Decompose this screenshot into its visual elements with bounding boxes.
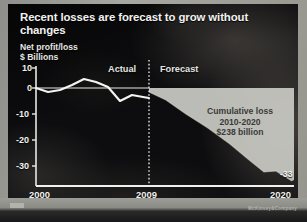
y-axis-label-m30: -30	[8, 161, 29, 171]
x-axis-label-2009: 2009	[136, 189, 157, 198]
y-axis-label-m10: -10	[8, 109, 29, 119]
photo-frame: Recent losses are forecast to grow witho…	[0, 0, 307, 222]
period-label-forecast: Forecast	[160, 64, 198, 74]
x-axis-label-2000: 2000	[29, 189, 50, 198]
axis-title-line-2: $ Billions	[20, 52, 170, 62]
slide-title: Recent losses are forecast to grow witho…	[20, 11, 270, 37]
axis-title-line-1: Net profit/loss	[20, 42, 170, 52]
callout-line-3: $238 billion	[184, 127, 296, 138]
period-label-actual: Actual	[108, 64, 136, 74]
slide-page-marker	[10, 203, 24, 208]
callout-line-1: Cumulative loss	[184, 106, 296, 117]
cumulative-loss-callout: Cumulative loss 2010-2020 $238 billion	[184, 106, 296, 138]
y-axis-label-10: 10	[10, 63, 32, 73]
presentation-slide: Recent losses are forecast to grow witho…	[8, 4, 298, 198]
y-axis-label-0: 0	[10, 83, 32, 93]
source-attribution: McKinsey&Company	[248, 206, 297, 211]
endpoint-value-label: -33	[280, 169, 292, 179]
actual-line	[36, 79, 149, 101]
callout-line-2: 2010-2020	[184, 117, 296, 128]
y-axis-label-m20: -20	[8, 135, 29, 145]
chart-axis-title: Net profit/loss $ Billions	[20, 42, 170, 63]
x-axis-label-2020: 2020	[270, 189, 291, 198]
